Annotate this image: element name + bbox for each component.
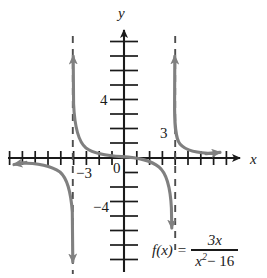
x-tick-label-3: 3 [160,126,168,141]
function-formula: f(x) = 3x x2− 16 [152,232,238,269]
x-tick-label-neg3: −3 [76,166,92,181]
origin-label-0: 0 [113,161,121,176]
y-tick-label-4: 4 [100,93,108,108]
denominator-rest: − 16 [207,253,234,269]
fraction-denominator: x2− 16 [191,251,238,269]
fraction-numerator: 3x [204,232,226,249]
left-branch-left-arrow [14,162,26,164]
y-axis-label: y [118,6,125,21]
x-axis-label: x [250,152,257,167]
middle-right-branch-curve [122,157,172,228]
right-branch-curve [175,56,214,153]
denominator-base: x [195,253,202,269]
y-tick-label-neg4: −4 [93,200,109,215]
function-name: f(x) [152,242,173,259]
rational-function-graph-figure: y x 4 −4 0 −3 3 f(x) = 3x x2− 16 [0,0,267,278]
right-branch-right-arrow [206,152,220,153]
equals-sign: = [178,242,186,259]
left-branch-curve [20,163,73,262]
fraction: 3x x2− 16 [191,232,238,269]
